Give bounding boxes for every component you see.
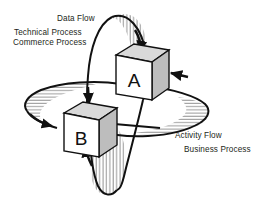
cube-b[interactable]: B xyxy=(64,102,117,157)
cube-a[interactable]: A xyxy=(116,44,169,100)
arrow-into-cube-b-top xyxy=(88,87,89,104)
label-commerce-process: Commerce Process xyxy=(13,38,86,47)
flow-diagram: A B Data Flow Technical Process Commerce… xyxy=(0,0,255,210)
diagram-canvas: A B Data Flow Technical Process Commerce… xyxy=(0,0,255,210)
arrow-into-cube-a-right xyxy=(171,73,188,77)
data-flow-label-group: Data Flow Technical Process Commerce Pro… xyxy=(13,14,95,47)
label-technical-process: Technical Process xyxy=(14,28,82,37)
arrow-into-cube-b-left xyxy=(30,114,52,126)
activity-flow-label-group: Activity Flow Business Process xyxy=(175,131,251,154)
label-data-flow: Data Flow xyxy=(57,14,95,23)
cube-b-label: B xyxy=(75,128,88,149)
label-business-process: Business Process xyxy=(184,145,251,154)
label-activity-flow: Activity Flow xyxy=(175,131,222,140)
cube-a-label: A xyxy=(128,70,141,91)
